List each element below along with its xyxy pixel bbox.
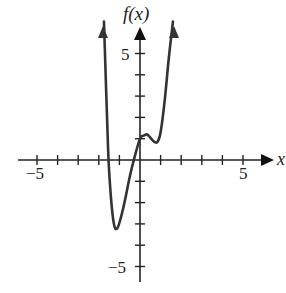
function-graph: f(x) x −5 5 5 −5 xyxy=(0,0,286,293)
x-tick-label-5: 5 xyxy=(239,164,248,184)
y-axis-label: f(x) xyxy=(123,3,149,25)
y-tick-label-neg5: −5 xyxy=(108,258,126,278)
y-axis-arrow-icon xyxy=(134,27,146,40)
curve-left-arrow-icon xyxy=(98,26,108,38)
x-axis-label: x xyxy=(277,149,285,170)
graph-canvas xyxy=(0,0,286,293)
y-tick-label-5: 5 xyxy=(121,45,130,65)
function-curve xyxy=(104,22,173,230)
x-tick-label-neg5: −5 xyxy=(26,164,44,184)
x-axis-arrow-icon xyxy=(261,154,274,166)
